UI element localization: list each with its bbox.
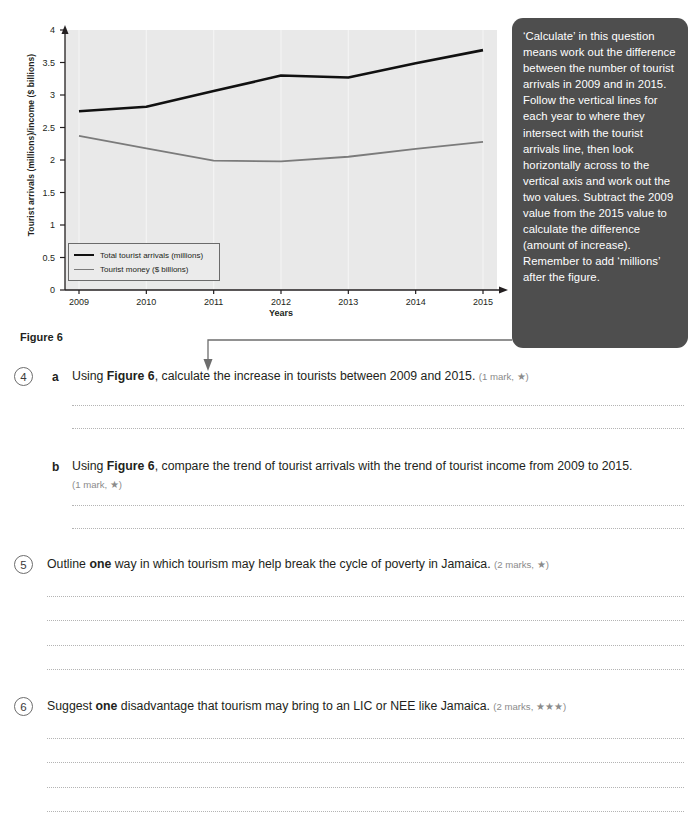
answer-line[interactable] [47, 762, 684, 763]
answer-line[interactable] [47, 787, 684, 788]
question-number-6: 6 [14, 697, 33, 716]
figure-caption: Figure 6 [20, 331, 63, 343]
question-number-4: 4 [14, 367, 33, 386]
question-marks-label: (2 marks, ★★★) [493, 701, 566, 712]
chart-x-tick-label: 2014 [396, 297, 436, 307]
chart-x-tick-label: 2015 [463, 297, 503, 307]
chart-x-tick-label: 2009 [59, 297, 99, 307]
question-letter-a: a [52, 370, 59, 384]
answer-line[interactable] [47, 620, 684, 621]
question-text-lead: Using [72, 459, 107, 473]
question-text-tail: , calculate the increase in tourists bet… [155, 369, 479, 383]
legend-label: Total tourist arrivals (millions) [100, 251, 203, 260]
question-text-tail: way in which tourism may help break the … [111, 557, 494, 571]
question-text-emphasis: Figure 6 [107, 369, 155, 383]
answer-line[interactable] [47, 669, 684, 670]
answer-line[interactable] [47, 811, 684, 812]
question-text-tail: , compare the trend of tourist arrivals … [155, 459, 633, 473]
question-text-lead: Outline [47, 557, 89, 571]
question-letter-b: b [52, 460, 59, 474]
chart-x-tick-label: 2010 [126, 297, 166, 307]
question-text-emphasis: one [89, 557, 111, 571]
question-text: Using Figure 6, calculate the increase i… [72, 368, 684, 386]
answer-line[interactable] [47, 738, 684, 739]
chart-y-tickmarks [60, 30, 65, 290]
question-text-tail: disadvantage that tourism may bring to a… [117, 699, 493, 713]
question-marks-label: (1 mark, ★) [72, 479, 122, 490]
answer-line[interactable] [72, 405, 684, 406]
question-text-emphasis: one [96, 699, 118, 713]
chart-x-tick-label: 2011 [194, 297, 234, 307]
question-text-lead: Using [72, 369, 107, 383]
question-text: Suggest one disadvantage that tourism ma… [47, 698, 684, 716]
legend-label: Tourist money ($ billions) [100, 265, 188, 274]
figure-6-chart: 00.511.522.533.54 2009201020112012201320… [0, 0, 520, 325]
legend-swatch-icon [74, 254, 94, 256]
chart-x-tick-label: 2012 [261, 297, 301, 307]
x-axis-arrowhead [499, 287, 508, 294]
legend-row-1: Total tourist arrivals (millions) [74, 248, 214, 262]
legend-swatch-icon [74, 269, 94, 270]
question-text: Outline one way in which tourism may hel… [47, 556, 684, 574]
question-text-emphasis: Figure 6 [107, 459, 155, 473]
question-text-lead: Suggest [47, 699, 96, 713]
chart-y-tick-label: 0 [31, 285, 55, 295]
question-marks-label: (1 mark, ★) [479, 371, 529, 382]
answer-line[interactable] [72, 428, 684, 429]
worksheet-page: 00.511.522.533.54 2009201020112012201320… [0, 0, 697, 818]
question-marks-label: (2 marks, ★) [494, 559, 549, 570]
legend-row-2: Tourist money ($ billions) [74, 262, 214, 276]
answer-line[interactable] [47, 596, 684, 597]
chart-y-axis-title: Tourist arrivals (millions)/income ($ bi… [26, 30, 36, 260]
chart-legend: Total tourist arrivals (millions)Tourist… [68, 243, 220, 281]
hint-callout-box: ‘Calculate’ in this question means work … [512, 18, 688, 348]
answer-line[interactable] [72, 528, 684, 529]
chart-x-tick-label: 2013 [328, 297, 368, 307]
answer-line[interactable] [47, 645, 684, 646]
chart-x-axis-title: Years [65, 308, 497, 318]
question-text: Using Figure 6, compare the trend of tou… [72, 458, 684, 493]
question-number-5: 5 [14, 555, 33, 574]
answer-line[interactable] [72, 505, 684, 506]
